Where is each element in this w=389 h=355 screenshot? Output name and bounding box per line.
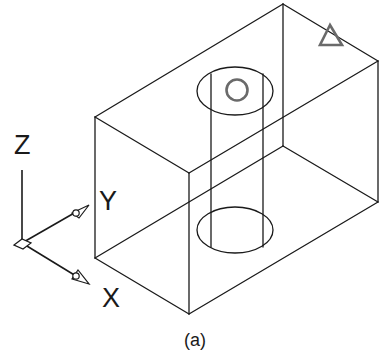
- hole-bottom-ellipse: [197, 207, 273, 253]
- edge-top-front-left: [95, 117, 189, 173]
- y-axis-label: Y: [99, 186, 117, 216]
- cylinder-hole: [197, 67, 273, 253]
- x-arrowhead-ring-icon: [73, 273, 79, 279]
- figure-canvas: Z Y X (a): [0, 0, 389, 355]
- edge-bottom-front-right: [189, 202, 378, 314]
- x-axis-label: X: [102, 283, 120, 313]
- edge-bottom-back-right: [283, 146, 378, 202]
- block-wireframe: [95, 4, 378, 314]
- y-arrowhead-ring-icon: [73, 210, 79, 216]
- edge-top-back-left: [95, 4, 283, 117]
- circle-marker-icon: [227, 80, 248, 101]
- figure-caption: (a): [184, 330, 206, 350]
- isometric-block-diagram: Z Y X (a): [0, 0, 389, 355]
- y-axis-line: [22, 212, 76, 243]
- axis-triad: Z Y X: [14, 130, 120, 313]
- x-axis-line: [22, 243, 76, 276]
- z-axis-label: Z: [14, 130, 31, 160]
- hole-top-ellipse: [197, 67, 273, 115]
- edge-top-back-right: [283, 4, 378, 61]
